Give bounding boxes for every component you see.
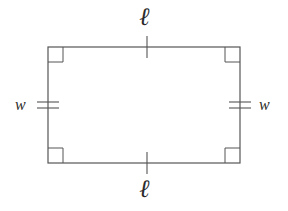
congruence-tick-marks (37, 36, 251, 174)
label-length-top: ℓ (139, 4, 149, 29)
right-angle-marker-bottom-left (48, 148, 63, 163)
rectangle-outline (48, 47, 240, 163)
right-angle-marker-top-right (225, 47, 240, 62)
right-angle-markers (48, 47, 240, 163)
right-angle-marker-top-left (48, 47, 63, 62)
right-angle-marker-bottom-right (225, 148, 240, 163)
label-width-left: w (15, 97, 26, 113)
label-length-bottom: ℓ (139, 176, 149, 201)
geometry-figure: ℓ ℓ w w (0, 0, 288, 211)
label-width-right: w (259, 97, 270, 113)
